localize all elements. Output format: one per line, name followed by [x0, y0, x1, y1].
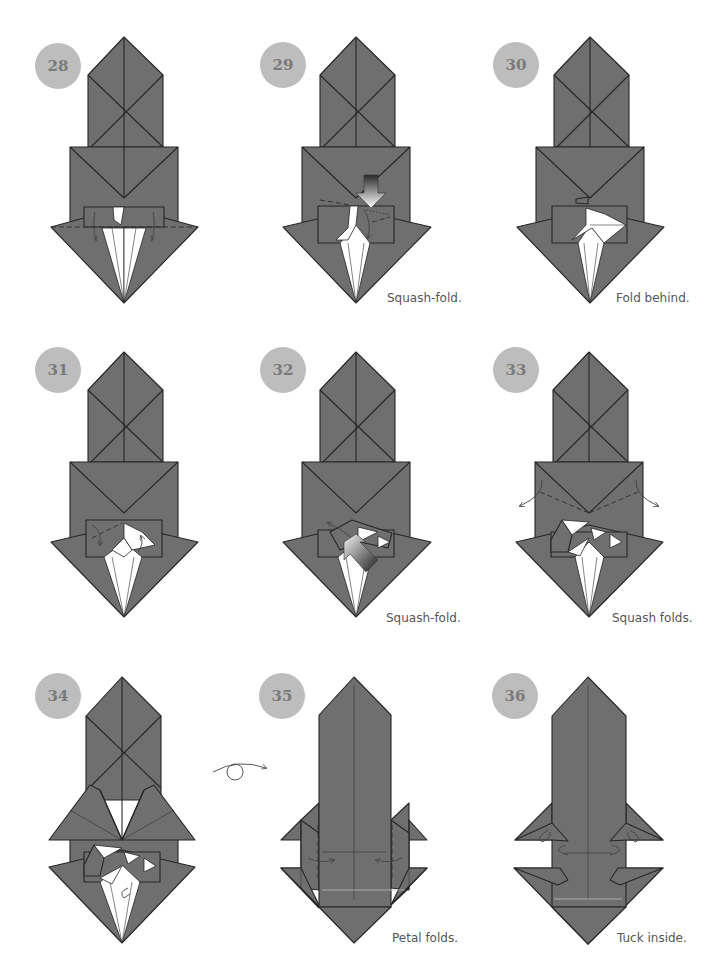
step-caption: Squash folds. [612, 611, 692, 625]
step-number: 32 [273, 361, 294, 379]
folded-model [51, 352, 198, 617]
folded-model [283, 37, 431, 303]
step-32-diagram: 32 Squash-fold. [260, 347, 461, 625]
step-number: 33 [506, 361, 527, 379]
folded-model [49, 677, 195, 943]
step-caption: Tuck inside. [616, 931, 687, 945]
step-29-diagram: 29 Squash-fold. [260, 37, 462, 305]
step-number: 35 [272, 687, 293, 705]
step-31-diagram: 31 [35, 347, 198, 617]
origami-instruction-page: 28 29 [0, 0, 719, 976]
step-caption: Squash-fold. [387, 291, 462, 305]
step-number: 31 [48, 361, 69, 379]
step-caption: Squash-fold. [386, 611, 461, 625]
step-34-diagram: 34 [35, 673, 195, 943]
step-36-diagram: 36 Tuck inside. [492, 673, 687, 945]
turn-over-arrow-icon [213, 764, 266, 780]
step-number: 36 [505, 687, 526, 705]
folded-model [283, 352, 431, 617]
step-number: 34 [48, 687, 69, 705]
step-30-diagram: 30 Fold behind. [493, 37, 690, 305]
folded-model [514, 677, 663, 944]
step-28-diagram: 28 [35, 37, 198, 303]
step-number: 29 [273, 56, 294, 74]
step-caption: Petal folds. [392, 931, 458, 945]
folded-model [281, 677, 427, 943]
step-number: 30 [506, 56, 527, 74]
step-number: 28 [48, 57, 69, 75]
step-caption: Fold behind. [616, 291, 690, 305]
folded-model [516, 352, 663, 617]
step-33-diagram: 33 Squash folds. [493, 347, 692, 625]
step-35-diagram: 35 Petal folds. [259, 673, 458, 945]
folded-model [517, 37, 664, 303]
